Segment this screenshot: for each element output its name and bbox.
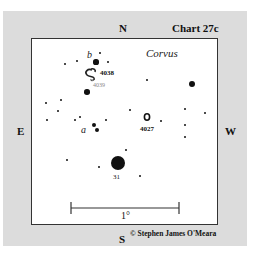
galaxy-ngc4027-icon	[144, 114, 149, 120]
star-31-label: 31	[113, 174, 120, 181]
ngc4038-label: 4038	[100, 70, 114, 77]
galaxy-ngc4038-icon	[86, 69, 95, 81]
copyright-label: © Stephen James O'Meara	[130, 230, 216, 238]
star-a-label: a	[81, 125, 86, 135]
ngc4027-label: 4027	[140, 126, 154, 133]
ngc4039-label: 4039	[93, 82, 105, 88]
scale-bar-label: 1°	[121, 211, 130, 221]
star-b-label: b	[87, 50, 92, 60]
